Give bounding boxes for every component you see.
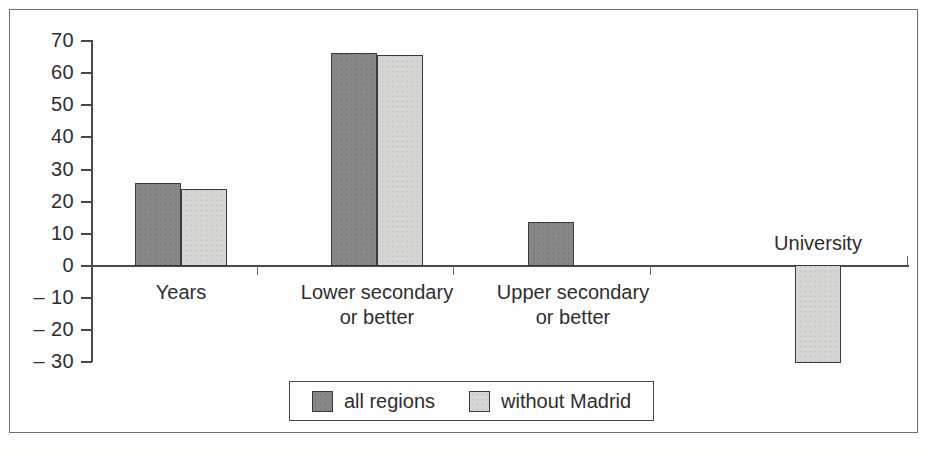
- y-axis-label-40: 40: [14, 126, 74, 146]
- y-axis-label-20: 20: [14, 191, 74, 211]
- legend-swatch-without-madrid-icon: [469, 391, 490, 412]
- bar-all-regions-lower-secondary: [331, 53, 377, 266]
- y-axis-label-0: 0: [14, 255, 74, 275]
- bar-all-regions-years: [135, 183, 181, 266]
- category-label-lower-secondary: Lower secondary or better: [287, 280, 467, 330]
- y-axis-tick-60: [81, 72, 92, 74]
- bar-all-regions-upper-secondary: [528, 222, 574, 266]
- y-axis-label-minus-10: – 10: [4, 287, 74, 307]
- y-axis-tick-minus-10: [81, 297, 92, 299]
- plot-area: 70 60 50 40 30 20 10 0 – 10 – 20 – 30 Ye…: [0, 0, 929, 453]
- y-axis-label-30: 30: [14, 159, 74, 179]
- bar-without-madrid-lower-secondary: [377, 55, 423, 266]
- y-axis-label-60: 60: [14, 62, 74, 82]
- category-label-years: Years: [111, 280, 251, 305]
- category-separator-tick-2: [453, 266, 454, 275]
- chart-legend: all regions without Madrid: [289, 381, 654, 421]
- legend-entry-without-madrid: without Madrid: [469, 390, 631, 413]
- bar-without-madrid-years: [181, 189, 227, 266]
- y-axis-label-10: 10: [14, 223, 74, 243]
- y-axis-label-minus-30: – 30: [4, 351, 74, 371]
- category-label-upper-secondary: Upper secondary or better: [483, 280, 663, 330]
- legend-entry-all-regions: all regions: [312, 390, 435, 413]
- legend-label-all-regions: all regions: [344, 390, 435, 413]
- bar-without-madrid-university: [795, 265, 841, 363]
- y-axis-tick-50: [81, 104, 92, 106]
- category-label-university: University: [738, 231, 898, 256]
- legend-swatch-all-regions-icon: [312, 391, 333, 412]
- y-axis-tick-70: [81, 40, 92, 42]
- bar-chart-figure: 70 60 50 40 30 20 10 0 – 10 – 20 – 30 Ye…: [0, 0, 929, 453]
- legend-label-without-madrid: without Madrid: [501, 390, 631, 413]
- category-separator-tick-1: [257, 266, 258, 275]
- y-axis-tick-minus-20: [81, 329, 92, 331]
- y-axis-tick-10: [81, 233, 92, 235]
- y-axis-label-70: 70: [14, 30, 74, 50]
- y-axis-tick-20: [81, 201, 92, 203]
- category-separator-tick-3: [650, 266, 651, 275]
- y-axis-label-50: 50: [14, 94, 74, 114]
- y-axis-label-minus-20: – 20: [4, 319, 74, 339]
- y-axis-tick-30: [81, 169, 92, 171]
- y-axis-tick-minus-30: [81, 361, 92, 363]
- y-axis-tick-40: [81, 136, 92, 138]
- category-separator-tick-4: [907, 256, 908, 266]
